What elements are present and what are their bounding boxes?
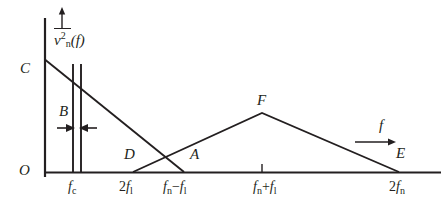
origin-label: O (19, 163, 30, 178)
x-tick-label-fc: fc (68, 180, 76, 196)
point-label-d: D (124, 147, 135, 162)
y-axis-label: v2n(f) (54, 28, 85, 49)
figure-canvas: v2n(f) C B D A F E O f fc 2fl fn−fl fn+f… (0, 0, 445, 212)
point-label-b: B (59, 104, 68, 119)
frequency-axis-label: f (379, 118, 383, 133)
point-label-f-peak: F (257, 93, 266, 108)
y-axis-arrow-head-icon (59, 7, 65, 15)
point-label-c: C (20, 61, 30, 76)
y-axis-label-overline: v2n (54, 28, 71, 49)
x-tick-label-fn-minus-fl: fn−fl (163, 180, 186, 196)
point-label-e: E (396, 146, 405, 161)
x-tick-label-2fl: 2fl (119, 180, 133, 196)
point-label-a: A (190, 147, 199, 162)
frequency-arrow-head-icon (388, 138, 396, 145)
x-tick-label-2fn: 2fn (389, 180, 405, 196)
y-axis-label-v: v (54, 32, 61, 48)
y-axis-label-argument: (f) (71, 32, 85, 48)
x-tick-label-fn-plus-fl: fn+fl (253, 180, 276, 196)
